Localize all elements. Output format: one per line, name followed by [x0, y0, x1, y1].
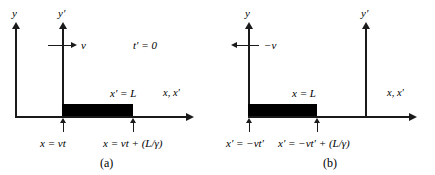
- y-prime-axis-label-a: y′: [58, 8, 65, 19]
- rod-a: [62, 104, 133, 116]
- velocity-label-b: −v: [264, 40, 276, 51]
- right-endpoint-label-a: x = vt + (L/γ): [103, 138, 163, 149]
- x-axis-b: [248, 116, 410, 118]
- y-axis-label-a: y: [12, 8, 17, 19]
- y-axis-a: [15, 28, 17, 118]
- x-axis-a: [15, 116, 187, 118]
- right-endpoint-label-b: x′ = −vt′ + (L/γ): [278, 138, 350, 149]
- left-endpoint-tick-shaft-b: [249, 122, 250, 132]
- y-prime-axis-label-b: y′: [361, 8, 368, 19]
- rod-length-label-b: x = L: [292, 88, 316, 99]
- right-endpoint-tick-shaft-b: [317, 122, 318, 132]
- right-endpoint-tick-arrowhead-a: [130, 118, 136, 123]
- x-axis-arrowhead-b: [409, 113, 417, 121]
- left-endpoint-label-b: x′ = −vt′: [226, 138, 264, 149]
- x-axis-arrowhead-a: [186, 113, 194, 121]
- velocity-label-a: v: [81, 40, 86, 51]
- x-axis-label-a: x, x′: [163, 88, 180, 99]
- left-endpoint-label-a: x = vt: [40, 138, 66, 149]
- y-prime-axis-b: [365, 28, 367, 116]
- left-endpoint-tick-shaft-a: [63, 122, 64, 132]
- panel-caption-a: (a): [100, 157, 113, 169]
- velocity-arrow-shaft-b: [237, 45, 259, 46]
- time-label-a: t′ = 0: [133, 40, 157, 51]
- y-axis-label-b: y: [245, 8, 250, 19]
- velocity-arrowhead-b: [231, 42, 237, 48]
- rod-length-label-a: x′ = L: [110, 88, 136, 99]
- velocity-arrow-shaft-a: [48, 45, 72, 46]
- relativity-length-contraction-figure: y x, x′ y′ v t′ = 0 x′ = L x = vt x = vt…: [0, 0, 435, 175]
- x-axis-label-b: x, x′: [387, 88, 404, 99]
- left-endpoint-tick-arrowhead-b: [246, 118, 252, 123]
- panel-b: y x, x′ y′ −v x = L x′ = −vt′ x′ = −vt′ …: [215, 0, 435, 175]
- panel-caption-b: (b): [323, 157, 337, 169]
- velocity-arrowhead-a: [71, 42, 77, 48]
- right-endpoint-tick-shaft-a: [133, 122, 134, 132]
- panel-a: y x, x′ y′ v t′ = 0 x′ = L x = vt x = vt…: [0, 0, 215, 175]
- y-prime-axis-a: [62, 28, 64, 116]
- left-endpoint-tick-arrowhead-a: [60, 118, 66, 123]
- right-endpoint-tick-arrowhead-b: [314, 118, 320, 123]
- rod-b: [248, 104, 317, 116]
